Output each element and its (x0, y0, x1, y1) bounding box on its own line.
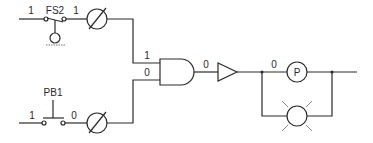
float-icon (50, 33, 60, 43)
float-switch-fs2 (19, 17, 87, 45)
pilot-light-label: P (294, 67, 301, 78)
gauge-top-icon (87, 8, 107, 29)
wire-bottom-to-and (107, 80, 160, 123)
wire-lamp-left (262, 72, 287, 116)
buffer-icon (218, 63, 237, 81)
and-input-a-state: 1 (144, 50, 150, 61)
and-gate-icon (160, 59, 194, 85)
wire-lamp-right (307, 72, 332, 116)
fs2-label: FS2 (46, 5, 65, 16)
and-output-state: 0 (203, 59, 209, 70)
logic-diagram: 1 FS2 1 1 PB1 1 0 0 0 0 P (0, 0, 373, 143)
pilot-input-state: 0 (271, 59, 277, 70)
pb1-output-state: 0 (71, 110, 77, 121)
pb1-input-state: 1 (29, 110, 35, 121)
fs2-output-state: 1 (73, 5, 79, 16)
pb1-label: PB1 (44, 87, 63, 98)
and-input-b-state: 0 (144, 67, 150, 78)
gauge-bottom-icon (87, 112, 107, 133)
wire-top-to-and (107, 19, 160, 63)
lamp-icon (282, 101, 312, 131)
fs2-input-state: 1 (28, 5, 34, 16)
